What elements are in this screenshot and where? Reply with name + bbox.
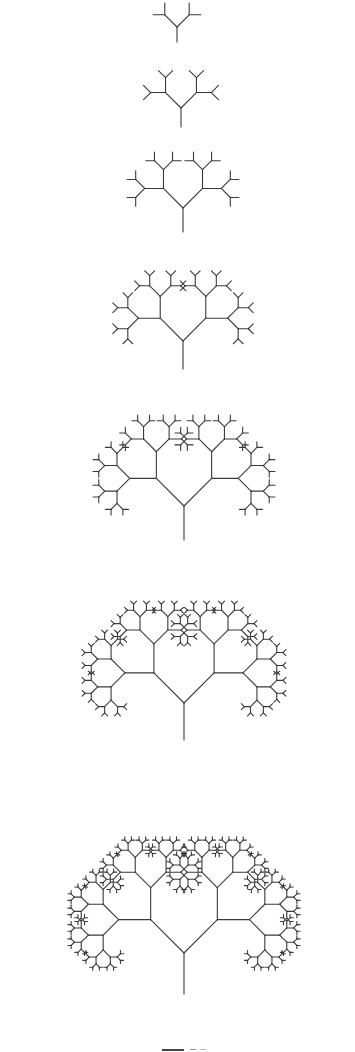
- tree-branch: [103, 876, 106, 879]
- tree-branch: [216, 271, 221, 276]
- tree-branch: [248, 630, 251, 633]
- tree-branch: [195, 271, 200, 276]
- tree-branch: [81, 887, 84, 890]
- tree-branch: [96, 872, 99, 875]
- tree-branch: [219, 601, 222, 604]
- tree-branch: [274, 643, 277, 646]
- tree-branch: [99, 460, 105, 466]
- tree-branch: [111, 639, 117, 645]
- tree-branch: [251, 630, 254, 633]
- tree-branch: [184, 478, 212, 506]
- tree-branch: [241, 704, 244, 707]
- tree-branch: [254, 621, 257, 624]
- tree-branch: [81, 904, 88, 911]
- tree-branch: [111, 634, 114, 637]
- tree-branch: [71, 942, 74, 945]
- tree-branch: [248, 303, 253, 308]
- tree-branch: [177, 643, 180, 646]
- tree-branch: [161, 601, 164, 604]
- tree-branch: [262, 862, 265, 865]
- tree-branch: [134, 610, 140, 616]
- tree-branch: [158, 71, 165, 78]
- tree-branch: [81, 928, 88, 935]
- tree-branch: [110, 964, 113, 967]
- tree-branch: [131, 601, 134, 604]
- tree-branch: [99, 491, 105, 497]
- tree-branch: [280, 904, 287, 911]
- tree-branch: [96, 964, 99, 967]
- tree-branch: [190, 271, 195, 276]
- tree-branch: [279, 957, 282, 960]
- tree-branch: [251, 503, 257, 509]
- tree-branch: [279, 882, 282, 885]
- tree-branch: [171, 624, 174, 627]
- tree-branch: [207, 601, 210, 604]
- tree-branch: [193, 161, 202, 170]
- caption-glyph-fragment: [190, 1049, 196, 1050]
- tree-branch: [160, 286, 171, 297]
- tree-branch: [135, 286, 140, 291]
- tree-branch: [105, 639, 111, 645]
- tree-branch: [154, 673, 184, 703]
- tree-branch: [144, 85, 151, 92]
- tree-branch: [138, 421, 144, 427]
- tree-branch: [233, 339, 238, 344]
- tree-branch: [171, 601, 174, 604]
- tree-branch: [294, 942, 297, 945]
- tree-branch: [192, 840, 195, 843]
- tree-branch: [263, 460, 269, 466]
- tree-branch: [209, 840, 212, 843]
- tree-branch: [145, 271, 150, 276]
- tree-branch: [222, 601, 225, 604]
- tree-branch: [154, 161, 163, 170]
- tree-branch: [177, 886, 180, 889]
- tree-branch: [91, 687, 97, 693]
- tree-branch: [279, 879, 282, 882]
- tree-branch: [117, 643, 120, 646]
- tree-branch: [241, 607, 244, 610]
- tree-branch: [143, 601, 146, 604]
- tree-branch: [113, 329, 118, 334]
- tree-branch: [234, 601, 237, 604]
- tree-branch: [228, 610, 234, 616]
- tree-branch: [248, 882, 251, 885]
- tree-generation-7: [68, 837, 300, 994]
- tree-branch: [248, 872, 255, 879]
- tree-branch: [194, 624, 197, 627]
- tree-branch: [82, 690, 85, 693]
- tree-branch: [124, 639, 127, 642]
- tree-branch: [194, 621, 197, 624]
- tree-branch: [95, 639, 98, 642]
- tree-branch: [166, 271, 171, 276]
- tree-branch: [251, 639, 257, 645]
- caption-glyph-fragment: [162, 1049, 184, 1051]
- tree-branch: [222, 840, 225, 843]
- tree-branch: [107, 872, 110, 875]
- tree-branch: [124, 707, 127, 710]
- tree-branch: [110, 855, 113, 858]
- tree-branch: [272, 964, 275, 967]
- tree-branch: [166, 93, 181, 108]
- tree-branch: [279, 954, 282, 957]
- tree-branch: [248, 957, 251, 960]
- tree-branch: [270, 704, 273, 707]
- tree-branch: [260, 630, 263, 633]
- tree-branch: [144, 93, 151, 100]
- tree-branch: [180, 607, 183, 610]
- tree-branch: [142, 840, 145, 843]
- tree-branch: [228, 308, 239, 319]
- tree-branch: [283, 887, 286, 890]
- tree-branch: [170, 879, 173, 882]
- tree-branch: [113, 308, 118, 313]
- tree-branch: [154, 630, 168, 644]
- tree-branch: [95, 707, 98, 710]
- tree-branch: [91, 653, 97, 659]
- tree-branch: [117, 879, 120, 882]
- tree-branch: [269, 872, 272, 875]
- tree-branch: [125, 439, 131, 445]
- tree-branch: [249, 920, 264, 935]
- tree-branch: [189, 71, 196, 78]
- tree-branch: [171, 621, 174, 624]
- tree-branch: [71, 928, 74, 931]
- tree-branch: [159, 840, 162, 843]
